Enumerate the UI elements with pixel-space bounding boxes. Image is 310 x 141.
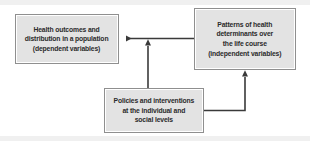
node-health-outcomes-label: Health outcomes and distribution in a po… xyxy=(22,25,111,54)
arrow-policies-to-outcomes-link xyxy=(145,39,151,88)
node-health-determinants[interactable]: Patterns of health determinants over the… xyxy=(194,8,296,70)
top-edge-band xyxy=(0,0,310,5)
node-policies-interventions-label: Policies and interventions at the indivi… xyxy=(111,96,197,125)
node-health-outcomes[interactable]: Health outcomes and distribution in a po… xyxy=(15,14,119,64)
diagram-canvas: Health outcomes and distribution in a po… xyxy=(0,0,310,141)
bottom-edge-band xyxy=(0,136,310,141)
arrow-policies-to-determinants xyxy=(204,70,248,110)
node-health-determinants-label: Patterns of health determinants over the… xyxy=(206,20,285,58)
node-policies-interventions[interactable]: Policies and interventions at the indivi… xyxy=(104,88,204,133)
